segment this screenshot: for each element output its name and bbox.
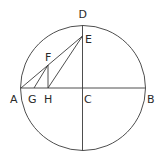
segment-ae [21,36,83,88]
segment-ge [48,36,83,88]
label-b: B [147,93,155,106]
label-g: H [44,93,52,106]
label-d: D [79,8,87,21]
label-c: C [84,93,92,106]
geometry-diagram: D E F A G H C B [0,0,160,162]
label-a: A [10,93,18,106]
label-e: E [85,33,92,46]
label-h: G [28,93,37,106]
label-f: F [45,51,51,64]
segment-hf [34,65,48,88]
